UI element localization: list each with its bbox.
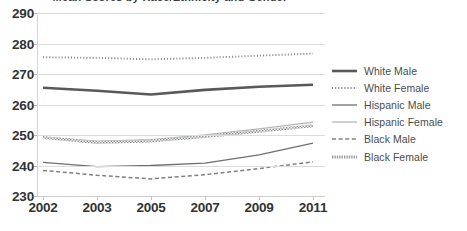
x-tick-label-2011: 2011 xyxy=(299,200,328,215)
x-tick-mark-2011 xyxy=(313,196,314,200)
y-tick-label-270: 270 xyxy=(1,67,34,82)
x-tick-label-2002: 2002 xyxy=(28,200,57,215)
y-tick-label-260: 260 xyxy=(1,97,34,112)
x-tick-mark-2005 xyxy=(151,196,152,200)
legend-item-label: Hispanic Female xyxy=(364,116,443,128)
x-tick-label-2003: 2003 xyxy=(82,200,111,215)
legend-item-label: Hispanic Male xyxy=(364,99,431,111)
gridline-280 xyxy=(37,44,325,45)
legend-swatch-icon xyxy=(332,152,357,162)
plot-area xyxy=(37,13,325,196)
series-line-white-female xyxy=(43,54,313,60)
legend-item-label: Black Male xyxy=(364,133,416,145)
legend-item-white-female[interactable]: White Female xyxy=(332,79,467,96)
y-tick-label-240: 240 xyxy=(1,158,34,173)
gridline-290 xyxy=(37,13,325,14)
gridline-230 xyxy=(37,196,325,197)
chart-title: Mean Scores by Race/Ethnicity and Gender xyxy=(0,0,340,5)
legend-swatch-icon xyxy=(332,83,357,93)
series-line-hispanic-male xyxy=(43,143,313,166)
gridline-240 xyxy=(37,166,325,167)
y-tick-label-250: 250 xyxy=(1,128,34,143)
y-tick-label-290: 290 xyxy=(1,6,34,21)
gridline-270 xyxy=(37,74,325,75)
legend-swatch-icon xyxy=(332,66,357,76)
legend-item-black-female[interactable]: Black Female xyxy=(332,148,467,165)
gridline-260 xyxy=(37,105,325,106)
legend-item-label: White Male xyxy=(364,65,417,77)
x-tick-mark-2007 xyxy=(205,196,206,200)
x-tick-label-2009: 2009 xyxy=(244,200,273,215)
y-tick-label-280: 280 xyxy=(1,36,34,51)
legend-item-label: White Female xyxy=(364,82,429,94)
x-tick-label-2005: 2005 xyxy=(136,200,165,215)
x-axis: 200220032005200720092011 xyxy=(37,200,325,224)
x-tick-mark-2009 xyxy=(259,196,260,200)
chart-container: Mean Scores by Race/Ethnicity and Gender… xyxy=(0,0,467,231)
legend-item-label: Black Female xyxy=(364,151,428,163)
legend-swatch-icon xyxy=(332,100,357,110)
legend-item-black-male[interactable]: Black Male xyxy=(332,131,467,148)
x-tick-mark-2002 xyxy=(43,196,44,200)
legend-swatch-icon xyxy=(332,117,357,127)
legend-item-hispanic-female[interactable]: Hispanic Female xyxy=(332,114,467,131)
legend-item-hispanic-male[interactable]: Hispanic Male xyxy=(332,96,467,113)
y-axis: 290280270260250240230 xyxy=(0,0,34,231)
series-line-white-male xyxy=(43,85,313,95)
chart-legend: White MaleWhite FemaleHispanic MaleHispa… xyxy=(332,62,467,165)
legend-swatch-icon xyxy=(332,134,357,144)
gridline-250 xyxy=(37,135,325,136)
legend-item-white-male[interactable]: White Male xyxy=(332,62,467,79)
x-tick-label-2007: 2007 xyxy=(190,200,219,215)
x-tick-mark-2003 xyxy=(97,196,98,200)
